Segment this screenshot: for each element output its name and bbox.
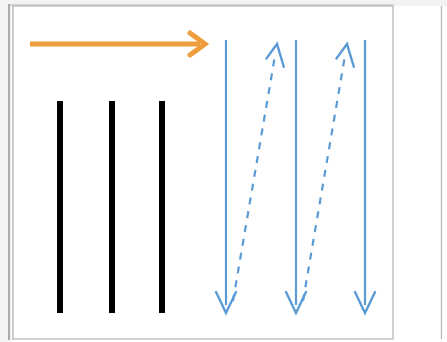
black-bar: [159, 101, 165, 313]
black-bar: [57, 101, 63, 313]
left-margin-shade: [0, 0, 13, 342]
diagram-canvas: [0, 0, 447, 342]
black-bar: [109, 101, 115, 313]
main-panel-frame: [13, 6, 393, 339]
scan-path-diagram: [0, 0, 447, 342]
